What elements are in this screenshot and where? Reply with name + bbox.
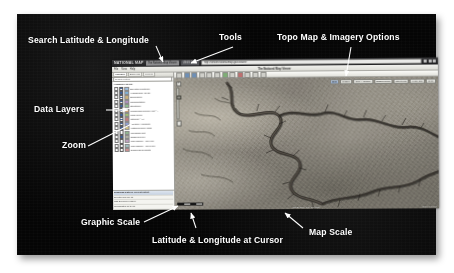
callout-tools: Tools <box>219 33 242 42</box>
layer-swatch-icon <box>125 148 130 152</box>
basemap-option-button[interactable]: Hydro Only <box>410 78 426 84</box>
browser-tab[interactable]: USGS Store <box>181 60 199 65</box>
layer-name: Historical Topo Maps <box>131 127 173 129</box>
browser-brand: NATIONAL MAP <box>114 61 144 65</box>
data-layers-panel[interactable]: Overlays Base Map Legend Search location… <box>112 73 175 210</box>
layer-name: US Topo Availability <box>130 122 172 124</box>
figure-canvas: NATIONAL MAP The National Map Viewer USG… <box>0 0 454 273</box>
full-extent-icon[interactable] <box>199 72 205 78</box>
search-input[interactable]: Search location <box>113 76 172 82</box>
layer-name: Hydrography (NHD) <box>130 92 172 94</box>
app-title: The National Map Viewer <box>258 66 291 70</box>
cursor-latlong-readout: Lat 38.1042° Lon -109.8754° <box>293 205 321 207</box>
callout-topo-imagery: Topo Map & Imagery Options <box>277 33 400 42</box>
expand-icon[interactable]: + <box>115 148 119 152</box>
identify-icon[interactable] <box>222 72 228 78</box>
layers-panel-footer[interactable]: Download Data for Current Extent Selecte… <box>113 189 174 210</box>
zoom-out-button[interactable]: − <box>176 121 181 126</box>
share-icon[interactable] <box>260 71 266 77</box>
layer-list[interactable]: +Elevation Contours+Hydrography (NHD)+Bo… <box>112 86 174 152</box>
layer-name: Transportation <box>130 100 172 102</box>
layer-name: Woodland Tint <box>131 131 173 133</box>
callout-graphic-scale: Graphic Scale <box>81 218 140 227</box>
print-icon[interactable] <box>245 71 251 77</box>
scale-bar-label: 0 2 4 mi <box>177 206 203 208</box>
callout-lat-long-cursor: Latitude & Longitude at Cursor <box>152 236 283 245</box>
callout-data-layers: Data Layers <box>34 105 84 114</box>
basemap-option-button[interactable]: Topo + Imagery <box>353 79 373 85</box>
window-buttons[interactable] <box>424 59 436 62</box>
callout-zoom: Zoom <box>62 141 86 150</box>
menu-view[interactable]: View <box>121 68 127 71</box>
close-icon[interactable] <box>433 59 436 62</box>
basemap-option-button[interactable]: Imagery <box>340 79 352 85</box>
layer-name: Elevation Contours <box>130 87 172 89</box>
layer-name: Map Indices - 1:24,000 <box>131 140 173 142</box>
basemap-option-button[interactable]: Shaded Relief <box>374 78 392 84</box>
layer-name: Land Cover <box>130 114 172 116</box>
zoom-in-button[interactable]: + <box>176 81 181 86</box>
basemap-option-button[interactable]: Topo <box>329 79 339 85</box>
measure-icon[interactable] <box>229 72 235 78</box>
footer-row: Coordinates: NAD 83 <box>114 205 173 210</box>
next-extent-icon[interactable] <box>214 72 220 78</box>
canyon-river-feature <box>174 77 439 210</box>
zoom-control[interactable]: + − <box>176 81 180 126</box>
layer-name: Download Products <box>131 149 173 151</box>
menu-help[interactable]: Help <box>130 68 135 71</box>
layer-name: Map Indices - 1:100,000 <box>131 144 173 146</box>
maximize-icon[interactable] <box>428 60 431 63</box>
bookmark-icon[interactable] <box>252 71 258 77</box>
minimize-icon[interactable] <box>424 60 427 63</box>
graphic-scale: 0 2 4 mi <box>177 202 203 208</box>
layer-search-row[interactable]: Search location <box>112 77 173 82</box>
zoom-slider-track[interactable] <box>176 88 180 120</box>
layer-name: Orthoimagery <box>130 118 172 120</box>
browser-tab-active[interactable]: The National Map Viewer <box>146 60 179 65</box>
map-scale-readout: Scale 1:48,000 <box>422 205 437 207</box>
callout-search-lat-long: Search Latitude & Longitude <box>28 36 149 45</box>
menu-file[interactable]: File <box>114 68 118 71</box>
map-canvas[interactable]: + − TopoImageryTopo + ImageryShaded Reli… <box>174 77 439 210</box>
layer-list-item[interactable]: +Download Products <box>113 148 174 153</box>
zoom-slider-thumb[interactable] <box>176 96 181 100</box>
zoom-in-icon[interactable] <box>184 72 190 78</box>
previous-extent-icon[interactable] <box>207 72 213 78</box>
pan-icon[interactable] <box>176 72 182 78</box>
layer-name: Boundaries <box>130 96 172 98</box>
layer-checkbox[interactable] <box>120 148 124 152</box>
layer-name: Structures <box>130 105 172 107</box>
layer-name: Geographic Names (GNIS) <box>130 109 172 111</box>
basemap-option-button[interactable]: Street Map <box>393 78 408 84</box>
topo-imagery-options[interactable]: TopoImageryTopo + ImageryShaded ReliefSt… <box>329 78 436 84</box>
callout-map-scale: Map Scale <box>309 228 352 237</box>
application-window: NATIONAL MAP The National Map Viewer USG… <box>112 57 439 210</box>
layer-name: Shaded Relief <box>131 136 173 138</box>
draw-icon[interactable] <box>237 71 243 77</box>
zoom-out-icon[interactable] <box>191 72 197 78</box>
basemap-option-button[interactable]: None <box>426 78 436 84</box>
